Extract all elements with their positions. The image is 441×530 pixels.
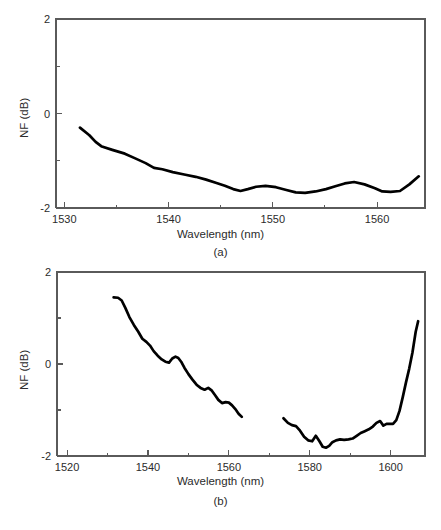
y-axis-title-a: NF (dB) xyxy=(18,98,30,138)
chart-panel-a: 1530154015501560-202 NF (dB) Wavelength … xyxy=(0,0,441,265)
x-tick-label: 1540 xyxy=(156,213,180,225)
data-series-line xyxy=(283,321,418,448)
x-axis-title-a: Wavelength (nm) xyxy=(0,228,441,240)
x-axis-title-b: Wavelength (nm) xyxy=(0,475,441,487)
y-tick-label: 0 xyxy=(45,358,51,370)
data-series-line xyxy=(80,128,419,193)
x-tick-label: 1560 xyxy=(365,213,389,225)
panel-caption-b: (b) xyxy=(0,495,441,507)
x-tick-label: 1520 xyxy=(55,461,79,473)
y-tick-label: 0 xyxy=(44,108,50,120)
panel-caption-a: (a) xyxy=(0,246,441,258)
y-axis-title-b: NF (dB) xyxy=(18,350,30,390)
data-series-line xyxy=(114,297,242,417)
x-tick-label: 1550 xyxy=(261,213,285,225)
y-tick-label: -2 xyxy=(40,202,50,214)
figure-root: 1530154015501560-202 NF (dB) Wavelength … xyxy=(0,0,441,530)
plot-frame xyxy=(56,19,425,208)
x-tick-label: 1600 xyxy=(378,461,402,473)
chart-plot-a: 1530154015501560-202 xyxy=(0,0,441,265)
chart-panel-b: 15201540156015801600-202 NF (dB) Wavelen… xyxy=(0,260,441,522)
x-tick-label: 1580 xyxy=(298,461,322,473)
y-tick-label: -2 xyxy=(41,450,51,462)
x-tick-label: 1530 xyxy=(52,213,76,225)
x-tick-label: 1540 xyxy=(136,461,160,473)
y-tick-label: 2 xyxy=(44,13,50,25)
x-tick-label: 1560 xyxy=(217,461,241,473)
y-tick-label: 2 xyxy=(45,266,51,278)
